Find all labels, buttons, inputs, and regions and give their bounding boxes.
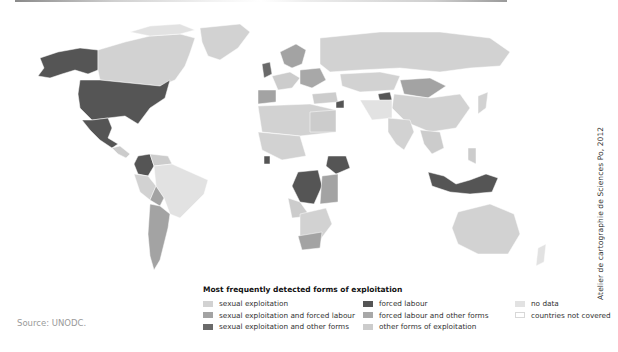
region-argentina-chile xyxy=(148,204,170,270)
legend-item-sexual-exploitation: sexual exploitation xyxy=(203,298,363,310)
region-canada xyxy=(98,34,195,86)
legend-item-not-covered: countries not covered xyxy=(515,310,611,322)
region-egypt xyxy=(310,110,336,132)
legend-swatch xyxy=(203,301,213,307)
legend-item-forced-labour: forced labour xyxy=(363,298,515,310)
credit-text: Atelier de cartographie de Sciences Po, … xyxy=(596,127,605,300)
region-arctic-islands xyxy=(130,24,195,36)
region-japan xyxy=(478,92,488,114)
region-new-zealand xyxy=(536,244,546,266)
legend-swatch xyxy=(363,324,373,330)
legend-item-no-data: no data xyxy=(515,298,611,310)
region-philippines xyxy=(468,148,476,164)
region-spain xyxy=(258,90,276,104)
region-east-africa xyxy=(320,174,338,204)
region-indonesia xyxy=(428,172,498,194)
legend-swatch xyxy=(203,324,213,330)
region-uk xyxy=(262,62,272,78)
legend-swatch xyxy=(363,301,373,307)
legend-item-other-forms: other forms of exploitation xyxy=(363,321,515,333)
legend-item-forced-and-other: forced labour and other forms xyxy=(363,310,515,322)
region-australia xyxy=(452,204,520,254)
region-india xyxy=(388,118,414,150)
source-text: Source: UNODC. xyxy=(17,318,86,328)
legend-swatch xyxy=(515,301,525,307)
world-map xyxy=(0,8,580,280)
region-eastern-europe xyxy=(300,68,326,88)
region-southeast-asia xyxy=(420,130,444,154)
region-ghana xyxy=(264,156,270,164)
region-greenland xyxy=(200,24,250,60)
region-kazakhstan xyxy=(340,72,400,92)
region-usa xyxy=(78,80,170,124)
legend-title: Most frequently detected forms of exploi… xyxy=(203,285,611,294)
region-turkey xyxy=(312,92,338,104)
legend-swatch xyxy=(515,312,525,318)
region-western-europe xyxy=(272,72,300,90)
legend-item-sexual-and-forced: sexual exploitation and forced labour xyxy=(203,310,363,322)
region-alaska xyxy=(38,48,98,78)
region-ethiopia xyxy=(326,156,350,174)
region-mexico xyxy=(82,118,118,148)
top-rule xyxy=(15,0,507,2)
legend-swatch xyxy=(203,312,213,318)
region-russia xyxy=(320,32,510,72)
legend: Most frequently detected forms of exploi… xyxy=(203,285,611,333)
legend-swatch xyxy=(363,312,373,318)
region-central-america xyxy=(112,146,130,158)
region-scandinavia xyxy=(280,44,306,68)
region-drc xyxy=(292,170,322,204)
legend-item-sexual-and-other: sexual exploitation and other forms xyxy=(203,321,363,333)
region-mongolia xyxy=(400,78,446,98)
